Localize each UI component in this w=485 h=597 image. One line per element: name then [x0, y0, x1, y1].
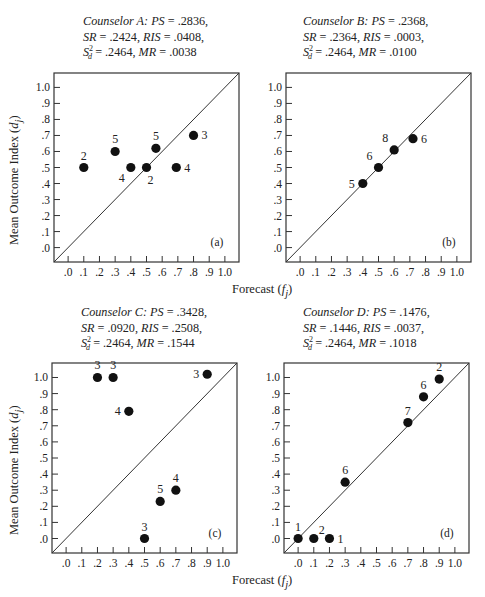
y-tick-label: .8 [41, 113, 50, 125]
x-tick-label: .1 [79, 266, 88, 278]
x-tick-label: .2 [325, 557, 334, 569]
data-point [374, 163, 383, 172]
x-tick-label: .0 [62, 557, 71, 569]
point-count-label: 4 [184, 161, 190, 175]
point-count-label: 6 [421, 132, 427, 146]
data-point [341, 478, 350, 487]
y-tick-label: .5 [271, 452, 280, 464]
point-count-label: 4 [119, 171, 125, 185]
point-count-label: 3 [110, 358, 116, 372]
data-point [390, 145, 399, 154]
data-point [156, 497, 165, 506]
x-tick-label: .4 [357, 557, 366, 569]
data-point [171, 486, 180, 495]
x-tick-label: .7 [406, 266, 415, 278]
data-point [403, 418, 412, 427]
y-tick-label: .6 [39, 436, 48, 448]
y-tick-label: .4 [271, 468, 280, 480]
panel-tag: (a) [211, 236, 224, 249]
point-count-label: 3 [94, 358, 100, 372]
y-tick-label: .0 [41, 242, 50, 254]
y-tick-label: .2 [41, 210, 50, 222]
x-tick-label: .6 [390, 266, 399, 278]
x-tick-label: .1 [309, 557, 318, 569]
x-tick-label: .5 [140, 557, 149, 569]
data-point [294, 534, 303, 543]
y-tick-label: .1 [41, 226, 50, 238]
y-tick-label: .1 [271, 516, 280, 528]
scatter-panel-d: .0.0.1.1.2.2.3.3.4.4.5.5.6.6.7.7.8.8.9.9… [266, 360, 469, 569]
y-tick-label: .4 [39, 468, 48, 480]
x-tick-label: .7 [172, 557, 181, 569]
point-count-label: 2 [81, 149, 87, 163]
y-tick-label: .5 [41, 162, 50, 174]
x-tick-label: .1 [311, 266, 320, 278]
x-tick-label: .9 [205, 266, 214, 278]
x-tick-label: .8 [187, 557, 196, 569]
point-count-label: 3 [142, 520, 148, 534]
x-tick-label: .8 [421, 266, 430, 278]
point-count-label: 2 [436, 360, 442, 374]
x-tick-label: .9 [203, 557, 212, 569]
x-tick-label: 1.0 [448, 557, 463, 569]
y-tick-label: 1.0 [268, 81, 283, 93]
x-tick-label: 1.0 [218, 266, 233, 278]
point-count-label: 6 [342, 463, 348, 477]
x-tick-label: .2 [93, 557, 102, 569]
x-tick-label: .5 [372, 557, 381, 569]
data-point [109, 373, 118, 382]
y-tick-label: .9 [41, 97, 50, 109]
point-count-label: 3 [202, 128, 208, 142]
data-point [309, 534, 318, 543]
x-tick-label: .6 [156, 557, 165, 569]
point-count-label: 4 [173, 471, 179, 485]
point-count-label: 6 [367, 149, 373, 163]
x-tick-label: .5 [142, 266, 151, 278]
x-tick-label: .2 [327, 266, 336, 278]
data-point [93, 373, 102, 382]
y-tick-label: .7 [39, 420, 48, 432]
x-tick-label: .9 [435, 557, 444, 569]
y-tick-label: .7 [41, 129, 50, 141]
y-tick-label: .2 [271, 500, 280, 512]
y-tick-label: .0 [273, 242, 282, 254]
x-tick-label: .3 [111, 266, 120, 278]
y-tick-label: .4 [41, 178, 50, 190]
data-point [151, 144, 160, 153]
point-count-label: 5 [153, 129, 159, 143]
y-tick-label: .2 [273, 210, 282, 222]
scatter-panel-c: .0.0.1.1.2.2.3.3.4.4.5.5.6.6.7.7.8.8.9.9… [34, 358, 237, 569]
x-tick-label: .1 [77, 557, 86, 569]
panel-tag: (b) [442, 236, 456, 249]
x-tick-label: .7 [404, 557, 413, 569]
x-tick-label: .4 [359, 266, 368, 278]
x-tick-label: .2 [95, 266, 104, 278]
y-tick-label: 1.0 [34, 371, 49, 383]
panel-tag: (d) [440, 527, 454, 540]
x-tick-label: .7 [174, 266, 183, 278]
data-point [189, 131, 198, 140]
x-tick-label: .4 [127, 266, 136, 278]
x-tick-label: .0 [296, 266, 305, 278]
x-tick-label: .4 [125, 557, 134, 569]
scatter-panel-a: .0.0.1.1.2.2.3.3.4.4.5.5.6.6.7.7.8.8.9.9… [36, 73, 239, 278]
point-count-label: 6 [421, 378, 427, 392]
point-count-label: 7 [405, 404, 411, 418]
y-tick-label: .6 [273, 145, 282, 157]
x-tick-label: 1.0 [450, 266, 465, 278]
data-point [419, 392, 428, 401]
data-point [325, 534, 334, 543]
data-point [408, 134, 417, 143]
x-tick-label: .0 [294, 557, 303, 569]
point-count-label: 3 [193, 367, 199, 381]
data-point [111, 147, 120, 156]
y-tick-label: 1.0 [36, 81, 51, 93]
y-tick-label: .0 [271, 533, 280, 545]
x-tick-label: .8 [419, 557, 428, 569]
panel-tag: (c) [209, 527, 222, 540]
y-tick-label: .3 [271, 484, 280, 496]
y-tick-label: .6 [41, 145, 50, 157]
y-tick-label: .2 [39, 500, 48, 512]
x-tick-label: .9 [437, 266, 446, 278]
x-tick-label: .0 [64, 266, 73, 278]
